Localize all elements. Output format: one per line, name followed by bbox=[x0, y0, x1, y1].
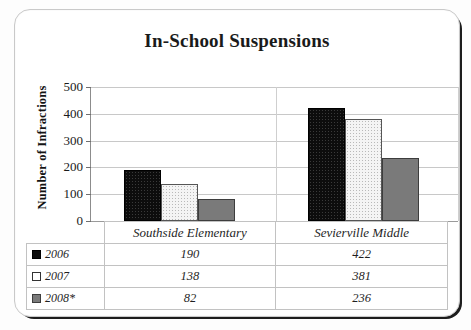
chart-title: In-School Suspensions bbox=[15, 30, 459, 52]
legend-cell-2008: 2008* bbox=[27, 288, 105, 310]
chart-page: In-School Suspensions Number of Infracti… bbox=[0, 0, 471, 330]
legend-label: 2007 bbox=[45, 269, 69, 283]
bar-2008-2 bbox=[382, 158, 419, 221]
data-legend-table: Southside ElementarySevierville Middle20… bbox=[26, 221, 448, 310]
bar-2007-2 bbox=[345, 119, 382, 221]
bar-2008-1 bbox=[198, 199, 235, 221]
table-corner-blank bbox=[27, 222, 105, 244]
bar-2007-1 bbox=[161, 184, 198, 221]
table-column-header-1: Southside Elementary bbox=[104, 222, 276, 244]
legend-cell-2007: 2007 bbox=[27, 266, 105, 288]
table-value-r1-c1: 190 bbox=[104, 244, 276, 266]
y-tick-400 bbox=[86, 114, 91, 115]
table-value-r2-c1: 138 bbox=[104, 266, 276, 288]
gridline-500 bbox=[91, 87, 458, 88]
plot-area: 0100200300400500 bbox=[90, 87, 459, 221]
table-column-header-2: Sevierville Middle bbox=[276, 222, 448, 244]
white-swatch-icon bbox=[32, 272, 41, 281]
y-tick-label-100: 100 bbox=[64, 186, 84, 202]
table-header-row: Southside ElementarySevierville Middle bbox=[27, 222, 448, 244]
y-tick-200 bbox=[86, 167, 91, 168]
y-tick-label-300: 300 bbox=[64, 133, 84, 149]
table-value-r3-c1: 82 bbox=[104, 288, 276, 310]
legend-label: 2008* bbox=[45, 291, 75, 305]
table-row: 2006190422 bbox=[27, 244, 448, 266]
y-tick-300 bbox=[86, 141, 91, 142]
table-value-r1-c2: 422 bbox=[276, 244, 448, 266]
table-value-r3-c2: 236 bbox=[276, 288, 448, 310]
chart-card: In-School Suspensions Number of Infracti… bbox=[14, 9, 460, 317]
gray-swatch-icon bbox=[32, 294, 41, 303]
table-row: 2008*82236 bbox=[27, 288, 448, 310]
table-value-r2-c2: 381 bbox=[276, 266, 448, 288]
bar-2006-2 bbox=[308, 108, 345, 221]
category-separator bbox=[276, 87, 277, 221]
y-tick-500 bbox=[86, 87, 91, 88]
y-tick-label-400: 400 bbox=[64, 106, 84, 122]
table-row: 2007138381 bbox=[27, 266, 448, 288]
legend-label: 2006 bbox=[45, 247, 69, 261]
y-tick-label-200: 200 bbox=[64, 159, 84, 175]
black-swatch-icon bbox=[32, 250, 41, 259]
bar-2006-1 bbox=[124, 170, 161, 221]
y-tick-label-500: 500 bbox=[64, 79, 84, 95]
gridline-400 bbox=[91, 114, 458, 115]
gridline-300 bbox=[91, 141, 458, 142]
y-tick-100 bbox=[86, 194, 91, 195]
y-axis-title: Number of Infractions bbox=[35, 73, 50, 223]
legend-cell-2006: 2006 bbox=[27, 244, 105, 266]
